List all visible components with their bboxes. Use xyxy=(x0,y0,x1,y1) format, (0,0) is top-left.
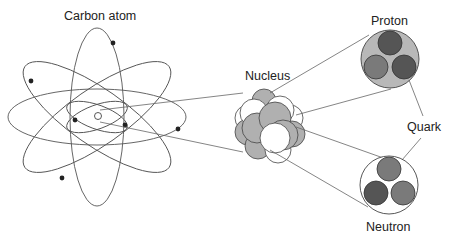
quark xyxy=(392,55,416,79)
quark-label: Quark xyxy=(407,120,442,134)
electron xyxy=(176,127,181,132)
electron xyxy=(73,118,78,123)
atom-label: Carbon atom xyxy=(64,9,136,23)
electron xyxy=(111,41,116,46)
proton-label: Proton xyxy=(371,14,408,28)
atom-nucleus-marker xyxy=(95,113,102,120)
quark xyxy=(377,157,401,181)
nucleus xyxy=(235,89,305,163)
electron xyxy=(29,79,34,84)
quark xyxy=(364,55,388,79)
neutron xyxy=(360,156,418,214)
quark xyxy=(378,31,402,55)
quark xyxy=(391,181,415,205)
neutron-label: Neutron xyxy=(366,220,411,234)
proton xyxy=(361,30,419,88)
quark xyxy=(364,181,388,205)
nucleus-label: Nucleus xyxy=(245,69,290,83)
electron xyxy=(60,176,65,181)
